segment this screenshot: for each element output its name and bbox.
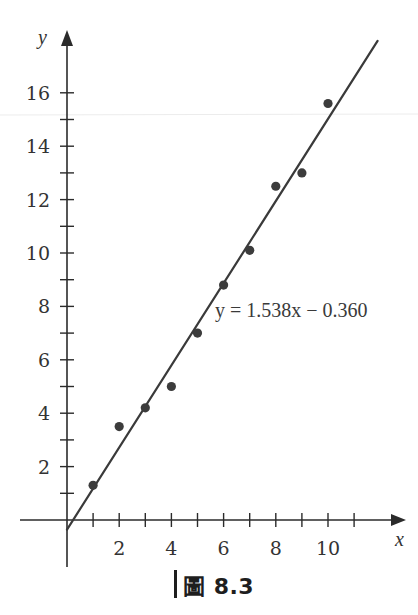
y-tick-label: 6	[38, 349, 50, 371]
data-point	[141, 403, 150, 412]
x-tick-label: 10	[316, 537, 340, 559]
data-point	[323, 99, 332, 108]
y-tick-label: 14	[26, 135, 50, 157]
data-point	[219, 280, 228, 289]
y-axis-arrow-icon	[61, 30, 73, 46]
caption-bar	[174, 570, 177, 598]
data-point	[115, 422, 124, 431]
y-tick-label: 10	[26, 242, 50, 264]
figure-caption: 圖 8.3	[174, 569, 254, 599]
y-tick-label: 4	[38, 402, 50, 424]
data-points	[89, 99, 333, 490]
data-point	[245, 246, 254, 255]
y-axis-label: y	[36, 26, 47, 49]
data-point	[193, 329, 202, 338]
y-tick-label: 2	[38, 456, 50, 478]
x-axis-arrow-icon	[391, 514, 406, 526]
caption-text: 圖 8.3	[183, 568, 254, 600]
scatter-plot: 246810246810121416 x y y = 1.538x − 0.36…	[0, 0, 418, 615]
x-tick-label: 6	[218, 537, 230, 559]
scan-artifact-line	[0, 114, 418, 115]
data-point	[89, 481, 98, 490]
data-point	[167, 382, 176, 391]
regression-equation-label: y = 1.538x − 0.360	[215, 299, 368, 322]
x-axis-label: x	[394, 528, 404, 550]
data-point	[271, 182, 280, 191]
y-tick-label: 12	[26, 189, 50, 211]
x-tick-label: 4	[165, 537, 177, 559]
y-tick-label: 16	[26, 82, 50, 104]
x-tick-label: 8	[270, 537, 282, 559]
data-point	[297, 168, 306, 177]
y-tick-label: 8	[38, 295, 50, 317]
x-tick-label: 2	[113, 537, 125, 559]
